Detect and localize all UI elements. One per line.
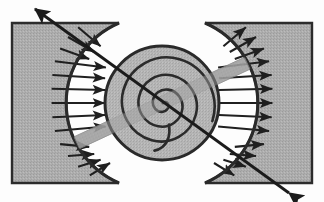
figure-canvas (0, 0, 324, 202)
diagram-svg (0, 0, 324, 202)
